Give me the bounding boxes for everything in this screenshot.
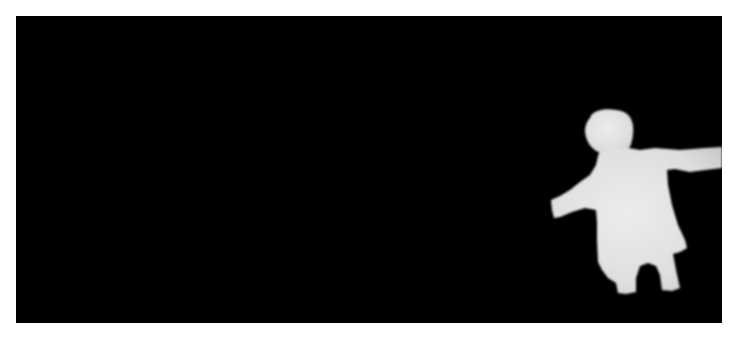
child-silhouette xyxy=(16,16,722,323)
head-shape xyxy=(585,109,633,152)
body-shape xyxy=(551,147,722,294)
depth-map-frame xyxy=(16,16,722,323)
